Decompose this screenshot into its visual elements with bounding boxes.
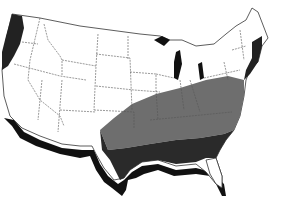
us-map	[0, 0, 282, 211]
